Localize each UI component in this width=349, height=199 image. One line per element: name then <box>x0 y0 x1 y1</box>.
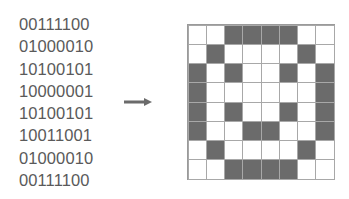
pixel-empty <box>242 63 261 83</box>
pixel-filled <box>188 121 207 141</box>
pixel-empty <box>279 140 298 160</box>
pixel-empty <box>206 82 225 102</box>
pixel-filled <box>261 25 280 45</box>
pixel-filled <box>242 121 261 141</box>
pixel-empty <box>315 159 334 179</box>
pixel-filled <box>261 121 280 141</box>
pixel-empty <box>242 44 261 64</box>
pixel-empty <box>206 25 225 45</box>
pixel-empty <box>224 140 243 160</box>
pixel-filled <box>315 82 334 102</box>
pixel-empty <box>279 44 298 64</box>
pixel-empty <box>206 63 225 83</box>
pixel-empty <box>297 25 316 45</box>
binary-row: 10100101 <box>19 58 93 80</box>
pixel-empty <box>315 44 334 64</box>
pixel-empty <box>188 44 207 64</box>
pixel-empty <box>261 44 280 64</box>
pixel-filled <box>206 140 225 160</box>
pixel-empty <box>261 102 280 122</box>
pixel-empty <box>242 102 261 122</box>
pixel-filled <box>188 102 207 122</box>
binary-row: 10100101 <box>19 102 93 124</box>
pixel-filled <box>315 63 334 83</box>
pixel-filled <box>188 63 207 83</box>
pixel-empty <box>315 25 334 45</box>
binary-row: 01000010 <box>19 35 93 57</box>
pixel-filled <box>297 44 316 64</box>
pixel-filled <box>279 102 298 122</box>
pixel-empty <box>224 121 243 141</box>
pixel-filled <box>224 63 243 83</box>
binary-row: 10011001 <box>19 124 93 146</box>
binary-row: 10000001 <box>19 80 93 102</box>
pixel-filled <box>297 140 316 160</box>
pixel-filled <box>242 159 261 179</box>
pixel-grid <box>187 24 335 180</box>
pixel-empty <box>279 82 298 102</box>
pixel-empty <box>315 140 334 160</box>
pixel-filled <box>279 159 298 179</box>
pixel-empty <box>261 82 280 102</box>
pixel-empty <box>261 140 280 160</box>
pixel-filled <box>224 159 243 179</box>
pixel-empty <box>188 159 207 179</box>
right-arrow-icon <box>124 98 152 106</box>
pixel-empty <box>297 63 316 83</box>
pixel-filled <box>279 25 298 45</box>
pixel-filled <box>206 44 225 64</box>
pixel-filled <box>261 159 280 179</box>
pixel-filled <box>188 82 207 102</box>
pixel-empty <box>297 121 316 141</box>
pixel-empty <box>224 82 243 102</box>
binary-row: 01000010 <box>19 147 93 169</box>
pixel-filled <box>224 102 243 122</box>
pixel-empty <box>242 140 261 160</box>
binary-row: 00111100 <box>19 13 93 35</box>
pixel-empty <box>279 121 298 141</box>
pixel-empty <box>261 63 280 83</box>
pixel-empty <box>297 82 316 102</box>
pixel-empty <box>206 159 225 179</box>
pixel-filled <box>242 25 261 45</box>
pixel-empty <box>206 102 225 122</box>
pixel-empty <box>188 140 207 160</box>
pixel-filled <box>315 102 334 122</box>
pixel-empty <box>242 82 261 102</box>
pixel-empty <box>297 159 316 179</box>
pixel-filled <box>315 121 334 141</box>
pixel-empty <box>188 25 207 45</box>
pixel-empty <box>224 44 243 64</box>
binary-row: 00111100 <box>19 169 93 191</box>
binary-code-list: 00111100 01000010 10100101 10000001 1010… <box>19 13 93 191</box>
pixel-empty <box>206 121 225 141</box>
pixel-filled <box>224 25 243 45</box>
pixel-empty <box>297 102 316 122</box>
pixel-filled <box>279 63 298 83</box>
